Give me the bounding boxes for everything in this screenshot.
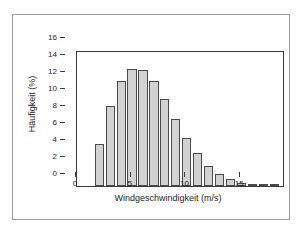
y-tick-label: 14 [13,50,57,59]
y-tick-label: 12 [13,67,57,76]
y-tick-label: 2 [13,152,57,161]
x-tick-label: 10 [180,179,189,188]
bar [270,184,279,186]
y-tick-mark [60,88,65,89]
y-tick-mark [60,173,65,174]
bar [259,184,268,186]
y-tick-mark [60,139,65,140]
bar [127,69,136,186]
x-tick-label: 0 [73,179,77,188]
bar [248,184,257,186]
x-tick-mark [130,172,131,177]
bar [215,174,224,186]
x-axis-title: Windgeschwindigkeit (m/s) [64,193,272,203]
x-tick-label: 15 [235,179,244,188]
y-tick-mark [60,156,65,157]
y-tick-mark [60,105,65,106]
bar [193,153,202,186]
y-tick-label: 0 [13,169,57,178]
bar [106,106,115,186]
y-tick-mark [60,122,65,123]
y-tick-mark [60,37,65,38]
y-tick-label: 8 [13,101,57,110]
bar [95,144,104,187]
y-tick-label: 6 [13,118,57,127]
plot-area [76,51,284,187]
figure-canvas: Häufigkeit (%) Windgeschwindigkeit (m/s)… [0,0,303,232]
x-tick-mark [184,172,185,177]
x-tick-label: 5 [127,179,131,188]
y-tick-label: 10 [13,84,57,93]
bar [138,70,147,186]
x-tick-mark [75,172,76,177]
x-tick-mark [239,172,240,177]
bar [149,81,158,186]
bar [160,99,169,186]
y-tick-label: 16 [13,33,57,42]
bar [171,119,180,186]
figure-outer-frame: Häufigkeit (%) Windgeschwindigkeit (m/s)… [12,14,290,220]
bar [204,166,213,186]
y-tick-label: 4 [13,135,57,144]
bar-series [77,52,283,186]
y-tick-mark [60,54,65,55]
bar [117,81,126,186]
y-tick-mark [60,71,65,72]
